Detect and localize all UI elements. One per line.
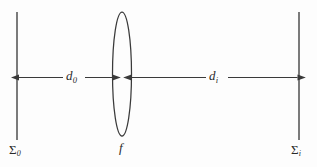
lens-ellipse: [113, 12, 132, 136]
object-distance-label: d0: [66, 69, 77, 82]
object-plane-label: Σ0: [9, 143, 21, 156]
image-distance-label-subscript: i: [216, 75, 218, 85]
object-plane-label-symbol: Σ: [9, 142, 17, 157]
image-distance-label-symbol: d: [209, 68, 216, 83]
image-distance-label: di: [209, 69, 218, 82]
image-plane-label-subscript: i: [299, 149, 301, 158]
diagram-vector-layer: [0, 0, 317, 167]
image-plane-label-symbol: Σ: [291, 142, 299, 157]
object-distance-label-subscript: 0: [73, 75, 77, 85]
optical-diagram-canvas: Σ0 Σi d0 di f: [0, 0, 317, 167]
object-distance-label-symbol: d: [66, 68, 73, 83]
focal-length-label: f: [119, 141, 123, 154]
image-plane-label: Σi: [291, 143, 301, 156]
object-plane-label-subscript: 0: [17, 149, 21, 158]
